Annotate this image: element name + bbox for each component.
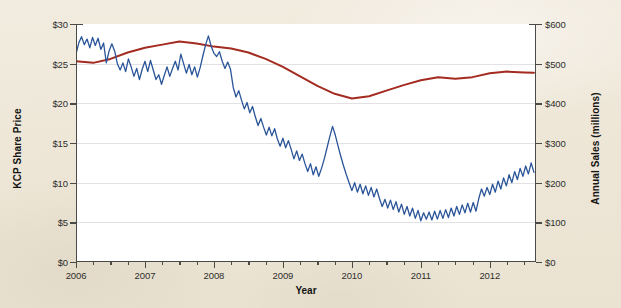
x-axis-minor-tick: [455, 262, 456, 265]
y-axis-left-tick: [70, 183, 76, 184]
y-axis-left-tick-label: $0: [58, 257, 68, 268]
x-axis-tick-label: 2011: [411, 270, 431, 281]
x-axis-minor-tick: [162, 262, 163, 265]
x-axis-minor-tick: [317, 262, 318, 265]
y-axis-right-tick: [536, 64, 542, 65]
y-axis-right-tick-label: $300: [545, 138, 566, 149]
y-axis-left-tick: [70, 64, 76, 65]
x-axis-minor-tick: [128, 262, 129, 265]
x-axis-tick-label: 2012: [479, 270, 500, 281]
x-axis-major-tick: [76, 262, 77, 268]
y-axis-right-tick-label: $100: [545, 217, 566, 228]
x-axis-tick-label: 2006: [66, 270, 87, 281]
y-axis-right-tick-labels: $0$100$200$300$400$500$600: [545, 24, 593, 262]
x-axis-minor-tick: [335, 262, 336, 265]
y-axis-right-tick: [536, 143, 542, 144]
y-axis-left-tick-label: $10: [52, 177, 68, 188]
y-axis-right-tick-label: $200: [545, 177, 566, 188]
x-axis-minor-tick: [231, 262, 232, 265]
y-axis-left-tick-labels: $0$5$10$15$20$25$30: [20, 24, 68, 262]
y-axis-left-tick-label: $15: [52, 138, 68, 149]
x-axis-tick-label: 2007: [135, 270, 156, 281]
y-axis-left-tick-label: $25: [52, 58, 68, 69]
y-axis-left-tick: [70, 222, 76, 223]
chart-container: $0$5$10$15$20$25$30 $0$100$200$300$400$5…: [0, 0, 621, 308]
y-axis-right-title: Annual Sales (millions): [590, 59, 601, 239]
y-axis-left-tick-label: $20: [52, 98, 68, 109]
y-axis-left-tick: [70, 24, 76, 25]
y-axis-left-line: [76, 24, 77, 262]
y-axis-left-tick-label: $5: [58, 217, 68, 228]
x-axis-minor-tick: [473, 262, 474, 265]
y-axis-right-tick-label: $500: [545, 58, 566, 69]
x-axis-minor-tick: [248, 262, 249, 265]
y-axis-right-tick: [536, 103, 542, 104]
y-axis-left-tick: [70, 103, 76, 104]
x-axis-minor-tick: [110, 262, 111, 265]
x-axis-minor-tick: [179, 262, 180, 265]
y-axis-right-tick-label: $600: [545, 19, 566, 30]
x-axis-major-tick: [283, 262, 284, 268]
x-axis-tick-label: 2010: [341, 270, 362, 281]
x-axis-major-tick: [490, 262, 491, 268]
y-axis-right-tick-label: $400: [545, 98, 566, 109]
y-axis-right-tick: [536, 222, 542, 223]
x-axis-title: Year: [76, 285, 536, 296]
y-axis-left-title: KCP Share Price: [12, 69, 23, 229]
y-axis-right-tick: [536, 183, 542, 184]
x-axis-major-tick: [145, 262, 146, 268]
series-layer: [76, 24, 536, 262]
x-axis-minor-tick: [300, 262, 301, 265]
x-axis-tick-label: 2008: [204, 270, 225, 281]
y-axis-right-tick-label: $0: [545, 257, 555, 268]
x-axis-minor-tick: [197, 262, 198, 265]
x-axis-major-tick: [421, 262, 422, 268]
x-axis-minor-tick: [266, 262, 267, 265]
x-axis-minor-tick: [438, 262, 439, 265]
x-axis-major-tick: [352, 262, 353, 268]
y-axis-right-tick: [536, 24, 542, 25]
x-axis-tick-label: 2009: [273, 270, 294, 281]
y-axis-left-tick: [70, 143, 76, 144]
y-axis-right-tick: [536, 262, 542, 263]
x-axis-minor-tick: [386, 262, 387, 265]
x-axis-major-tick: [214, 262, 215, 268]
top-right-corner-tick: [529, 24, 536, 25]
x-axis-minor-tick: [369, 262, 370, 265]
x-axis-minor-tick: [524, 262, 525, 265]
x-axis-minor-tick: [93, 262, 94, 265]
top-left-corner-tick: [76, 24, 83, 25]
y-axis-left-tick-label: $30: [52, 19, 68, 30]
x-axis-minor-tick: [404, 262, 405, 265]
series-line-annual-sales: [76, 41, 534, 98]
series-line-share-price: [76, 36, 534, 221]
x-axis-minor-tick: [507, 262, 508, 265]
